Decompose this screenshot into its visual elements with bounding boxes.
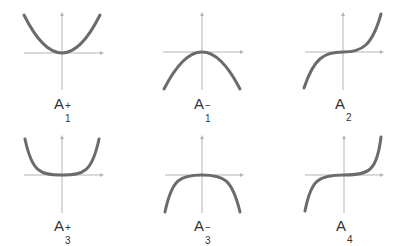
panel-a2 [304, 12, 384, 90]
panel-a3-minus [165, 135, 244, 213]
y-axis-arrow-icon [342, 135, 346, 139]
label-base: A [336, 217, 346, 234]
label-base: A [54, 95, 64, 112]
label-sup: − [205, 223, 211, 233]
x-axis-arrow-icon [100, 173, 104, 177]
label-sub: 1 [65, 114, 71, 124]
label-a3-plus: A+3 [54, 218, 72, 233]
label-a1-plus: A+1 [54, 96, 72, 111]
y-axis-arrow-icon [341, 12, 345, 16]
y-axis-arrow-icon [60, 12, 64, 16]
label-sup: + [65, 101, 71, 111]
x-axis-arrow-icon [380, 50, 384, 54]
label-sup: − [205, 101, 211, 111]
label-a2: A2 [335, 96, 353, 111]
label-sub: 2 [346, 113, 352, 123]
label-sub: 1 [205, 114, 211, 124]
label-a1-minus: A−1 [194, 96, 212, 111]
label-sup: + [65, 223, 71, 233]
x-axis-arrow-icon [380, 173, 384, 177]
label-sub: 3 [65, 236, 71, 246]
label-sub: 4 [347, 235, 353, 245]
y-axis-arrow-icon [60, 135, 64, 139]
label-base: A [335, 95, 345, 112]
label-a4: A4 [336, 218, 354, 233]
x-axis-arrow-icon [240, 50, 244, 54]
x-axis-arrow-icon [100, 51, 104, 55]
panel-a1-minus [163, 12, 244, 90]
panel-a3-plus [24, 135, 104, 213]
label-base: A [54, 217, 64, 234]
label-base: A [194, 95, 204, 112]
singularity-diagram [0, 0, 402, 246]
panel-a4 [305, 135, 384, 213]
label-sub: 3 [205, 236, 211, 246]
y-axis-arrow-icon [200, 12, 204, 16]
label-base: A [194, 217, 204, 234]
y-axis-arrow-icon [200, 135, 204, 139]
curve-quintic [305, 137, 381, 211]
label-a3-minus: A−3 [194, 218, 212, 233]
x-axis-arrow-icon [240, 173, 244, 177]
panel-a1-plus [24, 12, 104, 90]
